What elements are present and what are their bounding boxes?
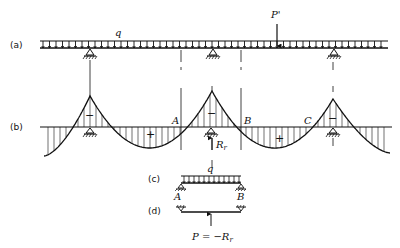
distributed-load-a	[40, 41, 388, 48]
part-b-label: (b)	[10, 122, 23, 132]
part-d-segment: (d) P = −Rr	[148, 205, 246, 244]
end-b-label: B	[236, 191, 244, 202]
part-c-segment: (c) q A B	[148, 163, 246, 202]
part-c-load-label: q	[207, 163, 213, 174]
point-load-label: P'	[270, 9, 280, 20]
support-icon	[326, 128, 340, 137]
sign-positive: +	[275, 132, 284, 145]
end-a-label: A	[173, 191, 181, 202]
reaction-label: Rr	[215, 139, 228, 152]
support-icon	[175, 184, 186, 191]
part-a-load-label: q	[115, 27, 121, 38]
point-b-label: B	[243, 115, 251, 126]
support-icon	[176, 205, 186, 211]
part-c-label: (c)	[148, 174, 160, 184]
part-a-label: (a)	[10, 40, 23, 50]
support-icon	[327, 49, 341, 59]
part-b-moment-diagram: (b) − + − + − A B C Rr	[10, 91, 392, 156]
part-a-beam: (a) q P'	[10, 9, 388, 59]
sign-negative: −	[85, 109, 94, 122]
sign-negative: −	[328, 112, 337, 125]
part-d-label: (d)	[148, 206, 161, 216]
sign-positive: +	[146, 128, 155, 141]
support-icon	[206, 49, 220, 59]
point-a-label: A	[171, 115, 179, 126]
sign-negative: −	[207, 107, 216, 120]
force-label: P = −Rr	[191, 231, 233, 244]
beam-diagram: (a) q P'	[0, 0, 400, 248]
support-icon	[204, 128, 218, 137]
support-icon	[83, 128, 97, 137]
point-c-label: C	[304, 115, 312, 126]
support-icon	[235, 184, 246, 191]
support-icon	[236, 205, 246, 211]
support-icon	[83, 49, 97, 59]
